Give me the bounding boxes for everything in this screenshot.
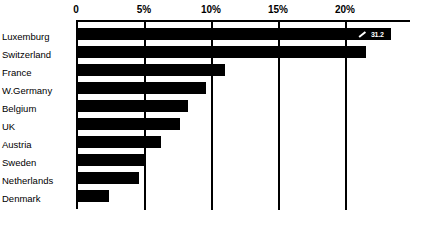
- bar-austria: [76, 136, 161, 148]
- x-axis-tick-20: 20%: [335, 4, 355, 15]
- bar-switzerland: [76, 46, 366, 58]
- bar-chart: 0 5% 10% 15% 20% Luxemburg Switzerland F…: [0, 0, 432, 231]
- bar-luxemburg: [76, 28, 391, 40]
- category-label-switzerland: Switzerland: [2, 49, 68, 60]
- category-label-sweden: Sweden: [2, 157, 68, 168]
- value-callout-luxemburg: 31.2: [369, 29, 386, 40]
- category-label-austria: Austria: [2, 139, 68, 150]
- x-axis-tick-15: 15%: [268, 4, 288, 15]
- plot-area: 31.2: [76, 22, 410, 208]
- bar-sweden: [76, 154, 146, 166]
- bar-netherlands: [76, 172, 139, 184]
- bar-denmark: [76, 190, 109, 202]
- y-axis-category-labels: Luxemburg Switzerland France W.Germany B…: [0, 22, 74, 208]
- category-label-uk: UK: [2, 121, 68, 132]
- x-axis-tick-5: 5%: [137, 4, 151, 15]
- category-label-luxemburg: Luxemburg: [2, 31, 68, 42]
- bar-uk: [76, 118, 180, 130]
- category-label-belgium: Belgium: [2, 103, 68, 114]
- category-label-netherlands: Netherlands: [2, 175, 68, 186]
- bar-w-germany: [76, 82, 206, 94]
- bar-france: [76, 64, 225, 76]
- category-label-w-germany: W.Germany: [2, 85, 68, 96]
- category-label-denmark: Denmark: [2, 193, 68, 204]
- x-axis-tick-10: 10%: [201, 4, 221, 15]
- category-label-france: France: [2, 67, 68, 78]
- bar-belgium: [76, 100, 188, 112]
- x-axis-tick-0: 0: [73, 4, 79, 15]
